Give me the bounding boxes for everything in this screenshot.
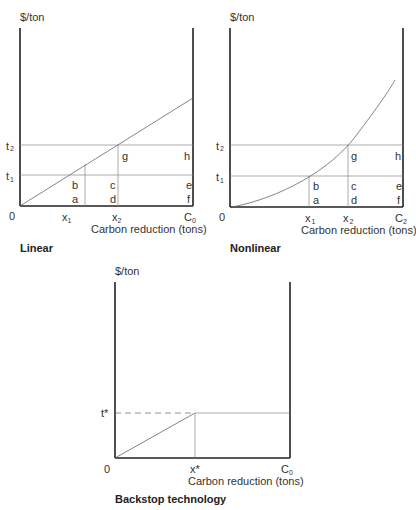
region-a: a (72, 193, 79, 205)
region-e: e (396, 180, 402, 192)
t1-label: t1 (6, 170, 14, 183)
x-axis-label: Carbon reduction (tons) (188, 475, 304, 487)
x-axis-label: Carbon reduction (tons) (301, 224, 416, 236)
figure-canvas: $/ton t2 t1 0 x1 x2 C0 Carbon reduction … (0, 0, 416, 510)
region-h: h (184, 150, 190, 162)
panel-nonlinear: $/ton t2 t1 0 x1 x2 C2 Carbon reduction … (216, 11, 416, 254)
t-star-label: t* (101, 407, 109, 419)
region-c: c (351, 180, 357, 192)
y-axis-label: $/ton (230, 11, 254, 23)
caption-backstop: Backstop technology (115, 493, 227, 505)
y-axis-label: $/ton (20, 11, 44, 23)
region-g: g (122, 150, 128, 162)
region-a: a (313, 194, 320, 206)
linear-cost-line (20, 98, 193, 206)
region-h: h (395, 150, 401, 162)
x1-label: x1 (62, 211, 72, 224)
caption-linear: Linear (20, 242, 54, 254)
caption-nonlinear: Nonlinear (230, 242, 281, 254)
t2-label: t2 (216, 140, 224, 152)
region-c: c (110, 179, 116, 191)
region-d: d (351, 194, 357, 206)
backstop-cost-line (115, 413, 195, 458)
y-axis-label: $/ton (115, 265, 139, 277)
t2-label: t2 (6, 140, 14, 152)
region-b: b (72, 179, 78, 191)
region-f: f (397, 194, 401, 206)
region-e: e (186, 179, 192, 191)
x-axis-label: Carbon reduction (tons) (91, 223, 207, 235)
origin-label: 0 (104, 463, 110, 475)
panel-backstop: $/ton t* 0 x* C0 Carbon reduction (tons)… (101, 265, 304, 505)
origin-label: 0 (219, 211, 225, 223)
region-b: b (313, 180, 319, 192)
panel-linear: $/ton t2 t1 0 x1 x2 C0 Carbon reduction … (6, 11, 207, 254)
origin-label: 0 (9, 210, 15, 222)
region-d: d (110, 193, 116, 205)
region-g: g (351, 150, 357, 162)
x-star-label: x* (190, 463, 201, 475)
t1-label: t1 (216, 171, 224, 184)
region-f: f (187, 193, 191, 205)
